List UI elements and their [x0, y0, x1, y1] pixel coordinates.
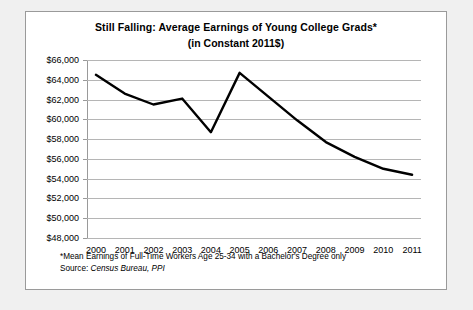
y-axis-tick-label: $52,000 [46, 193, 79, 203]
y-axis-tick-label: $66,000 [46, 55, 79, 65]
x-axis-tick-label: 2009 [345, 245, 365, 255]
y-axis-tick-label: $62,000 [46, 95, 79, 105]
y-axis-tick [83, 238, 87, 239]
source-prefix: Source: [60, 264, 91, 273]
source-text: Source: Census Bureau, PPI [60, 264, 165, 273]
chart-subtitle: (in Constant 2011$) [26, 37, 446, 49]
y-axis-tick-label: $48,000 [46, 233, 79, 243]
x-axis-tick-label: 2010 [373, 245, 393, 255]
footnote-text: *Mean Earnings of Full-Time Workers Age … [60, 252, 346, 261]
x-axis-tick-label: 2011 [402, 245, 421, 255]
gridline [87, 238, 421, 239]
y-axis-tick-label: $58,000 [46, 134, 79, 144]
y-axis-tick-label: $50,000 [46, 213, 79, 223]
y-axis-tick-label: $60,000 [46, 114, 79, 124]
plot-area: $66,000$64,000$62,000$60,000$58,000$56,0… [87, 60, 421, 238]
chart-frame: Still Falling: Average Earnings of Young… [25, 11, 447, 290]
y-axis-tick-label: $54,000 [46, 174, 79, 184]
y-axis-tick-label: $56,000 [46, 154, 79, 164]
y-axis-tick-label: $64,000 [46, 75, 79, 85]
chart-title: Still Falling: Average Earnings of Young… [26, 21, 446, 33]
data-line [87, 60, 421, 238]
source-body: Census Bureau, PPI [91, 264, 165, 273]
